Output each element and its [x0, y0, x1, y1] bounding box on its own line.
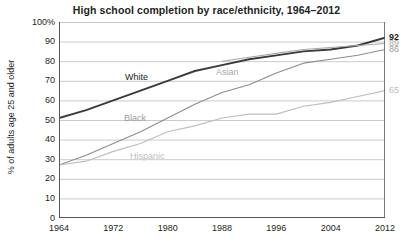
- x-tick-2004: 2004: [309, 223, 353, 233]
- x-tick-1980: 1980: [146, 223, 190, 233]
- x-tick-1988: 1988: [200, 223, 244, 233]
- line-white: [59, 38, 385, 118]
- plot-area: [59, 22, 385, 218]
- y-axis-label: % of adults age 25 and older: [6, 22, 16, 212]
- end-label-black: 86: [389, 45, 399, 54]
- x-tick-1996: 1996: [254, 223, 298, 233]
- y-tick-10: 10: [21, 194, 55, 203]
- y-tick-30: 30: [21, 155, 55, 164]
- y-tick-80: 80: [21, 57, 55, 66]
- series-label-white: White: [125, 73, 148, 82]
- chart-container: High school completion by race/ethnicity…: [0, 0, 413, 247]
- gridlines: [59, 23, 385, 219]
- chart-title: High school completion by race/ethnicity…: [0, 4, 413, 16]
- x-tick-1964: 1964: [37, 223, 81, 233]
- y-axis-tick-labels: 100%9080706050403020100: [19, 0, 55, 247]
- series-lines: [59, 38, 385, 165]
- y-tick-100: 100%: [21, 18, 55, 27]
- line-asian: [222, 44, 385, 62]
- y-tick-90: 90: [21, 37, 55, 46]
- x-tick-2012: 2012: [363, 223, 407, 233]
- series-label-black: Black: [124, 114, 146, 123]
- y-tick-50: 50: [21, 116, 55, 125]
- end-label-hispanic: 65: [389, 86, 399, 95]
- x-tick-1972: 1972: [91, 223, 135, 233]
- y-tick-0: 0: [21, 214, 55, 223]
- series-label-hispanic: Hispanic: [130, 152, 165, 161]
- chart-svg: [59, 22, 385, 218]
- y-tick-60: 60: [21, 96, 55, 105]
- series-label-asian: Asian: [216, 68, 239, 77]
- y-tick-40: 40: [21, 135, 55, 144]
- y-tick-20: 20: [21, 174, 55, 183]
- y-tick-70: 70: [21, 76, 55, 85]
